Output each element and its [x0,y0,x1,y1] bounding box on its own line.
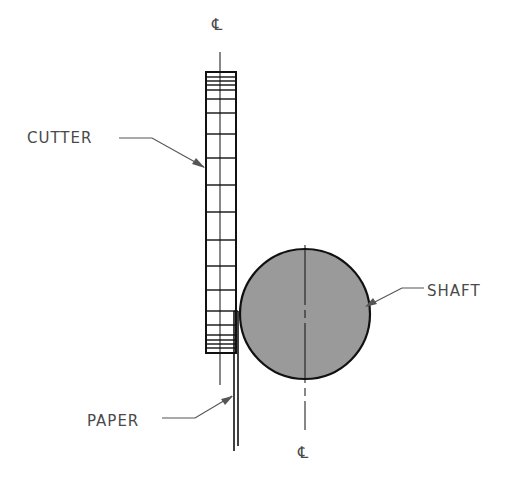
cutter-callout: CUTTER [27,129,205,168]
cutter-label: CUTTER [27,129,92,147]
cutter [206,72,236,353]
shaft-callout: SHAFT [365,282,481,307]
centerline-symbol-top: ℄ [211,15,223,34]
shaft [240,245,370,430]
arrowhead-icon [192,158,205,168]
cutter-shaft-diagram: ℄ [0,0,525,484]
arrowhead-icon [221,396,233,405]
centerline-label-top: ℄ [211,15,223,34]
paper-callout: PAPER [87,396,233,430]
centerline-label-bottom: ℄ [297,443,309,462]
shaft-label: SHAFT [427,282,481,300]
paper-label: PAPER [87,412,139,430]
centerline-symbol-bottom: ℄ [297,443,309,462]
